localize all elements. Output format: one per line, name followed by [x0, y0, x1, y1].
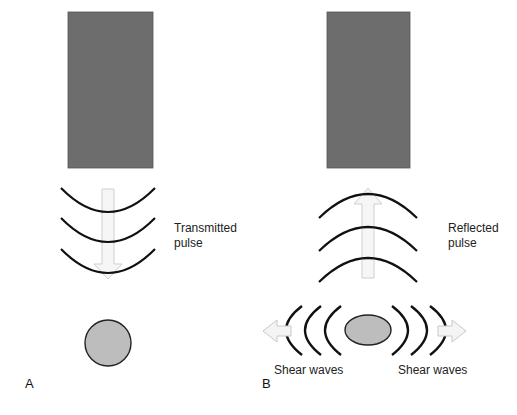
transmitted-label-line2: pulse	[174, 236, 237, 251]
shear-arc-left-2	[305, 306, 321, 355]
reflected-label-line1: Reflected	[448, 221, 499, 236]
shear-arc-right-1	[392, 306, 408, 355]
target-circle	[85, 320, 131, 366]
shear-arc-right-2	[411, 306, 427, 355]
reflected-label-line2: pulse	[448, 236, 499, 251]
shear-waves-left-label: Shear waves	[274, 363, 343, 378]
transmitted-label-line1: Transmitted	[174, 221, 237, 236]
panel-label-b: B	[262, 376, 271, 391]
panel-b	[263, 12, 466, 355]
panel-a	[61, 12, 155, 366]
reflect-arrow-icon	[354, 188, 382, 278]
ultrasound-diagram	[0, 0, 517, 415]
transmit-arrow-icon	[94, 189, 122, 279]
target-ellipse	[345, 315, 391, 345]
transducer-a	[68, 12, 153, 168]
transducer-b	[327, 12, 410, 168]
shear-arrow-right-icon	[438, 320, 466, 342]
panel-label-a: A	[25, 376, 34, 391]
shear-waves-right-label: Shear waves	[398, 363, 467, 378]
reflected-pulse-label: Reflected pulse	[448, 221, 499, 251]
shear-arc-left-3	[325, 306, 341, 355]
transmitted-pulse-label: Transmitted pulse	[174, 221, 237, 251]
